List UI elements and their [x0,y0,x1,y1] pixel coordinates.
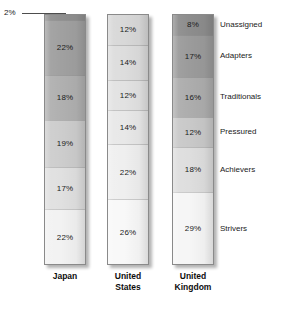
bar-group-united-kingdom: 8% 17% 16% 12% 18% 29% [172,14,214,265]
axis-label-line-2: Kingdom [161,282,225,293]
segment-value-label: 14% [120,123,136,132]
bar-group-united-states: 12% 14% 12% 14% 22% 26% [107,14,149,265]
segment-value-label: 18% [185,165,201,174]
stacked-bar-chart: 2% 2% 22% 18% 19% 17% 22% [0,0,283,317]
segment-japan-achievers[interactable]: 17% [45,167,85,209]
bar-united-kingdom[interactable]: 8% 17% 16% 12% 18% 29% [172,14,214,265]
segment-united-kingdom-pressured[interactable]: 12% [173,117,213,147]
bar-japan[interactable]: 2% 22% 18% 19% 17% 22% [44,14,86,265]
segment-value-label: 12% [120,91,136,100]
segment-united-kingdom-traditionals[interactable]: 16% [173,77,213,117]
segment-united-states-pressured[interactable]: 14% [108,110,148,145]
segment-value-label: 12% [185,128,201,137]
segment-japan-adapters[interactable]: 22% [45,20,85,75]
bar-united-states[interactable]: 12% 14% 12% 14% 22% 26% [107,14,149,265]
legend-item-unassigned: Unassigned [220,20,262,29]
segment-united-kingdom-strivers[interactable]: 29% [173,192,213,264]
segment-united-states-strivers[interactable]: 26% [108,199,148,264]
legend-item-pressured: Pressured [220,127,256,136]
segment-value-label: 26% [120,228,136,237]
segment-united-kingdom-adapters[interactable]: 17% [173,35,213,77]
legend: Unassigned Adapters Traditionals Pressur… [220,14,283,265]
segment-united-kingdom-achievers[interactable]: 18% [173,147,213,192]
segment-value-label: 18% [57,93,73,102]
segment-japan-strivers[interactable]: 22% [45,209,85,264]
legend-item-achievers: Achievers [220,165,255,174]
bar-group-japan: 2% 22% 18% 19% 17% 22% [44,14,86,265]
axis-label-line-1: Japan [33,271,97,282]
axis-label-line-2: States [96,282,160,293]
legend-item-adapters: Adapters [220,51,252,60]
axis-label-line-1: United [96,271,160,282]
segment-value-label: 22% [120,168,136,177]
segment-united-states-unassigned[interactable]: 12% [108,15,148,45]
segment-japan-pressured[interactable]: 19% [45,120,85,167]
segment-value-label: 8% [187,20,199,29]
segment-value-label: 22% [57,43,73,52]
segment-value-label: 19% [57,139,73,148]
legend-item-traditionals: Traditionals [220,92,261,101]
callout-label-2-percent: 2% [4,8,16,18]
segment-value-label: 12% [120,25,136,34]
axis-label-united-states: United States [96,271,160,293]
segment-value-label: 22% [57,233,73,242]
segment-united-states-traditionals[interactable]: 12% [108,80,148,110]
segment-united-states-achievers[interactable]: 22% [108,144,148,199]
segment-value-label: 17% [185,52,201,61]
axis-label-line-1: United [161,271,225,282]
segment-united-kingdom-unassigned[interactable]: 8% [173,15,213,35]
axis-label-united-kingdom: United Kingdom [161,271,225,293]
segment-value-label: 29% [185,224,201,233]
axis-label-japan: Japan [33,271,97,282]
segment-value-label: 17% [57,184,73,193]
segment-japan-traditionals[interactable]: 18% [45,75,85,120]
legend-item-strivers: Strivers [220,224,247,233]
segment-united-states-adapters[interactable]: 14% [108,45,148,80]
segment-value-label: 14% [120,58,136,67]
segment-value-label: 16% [185,93,201,102]
